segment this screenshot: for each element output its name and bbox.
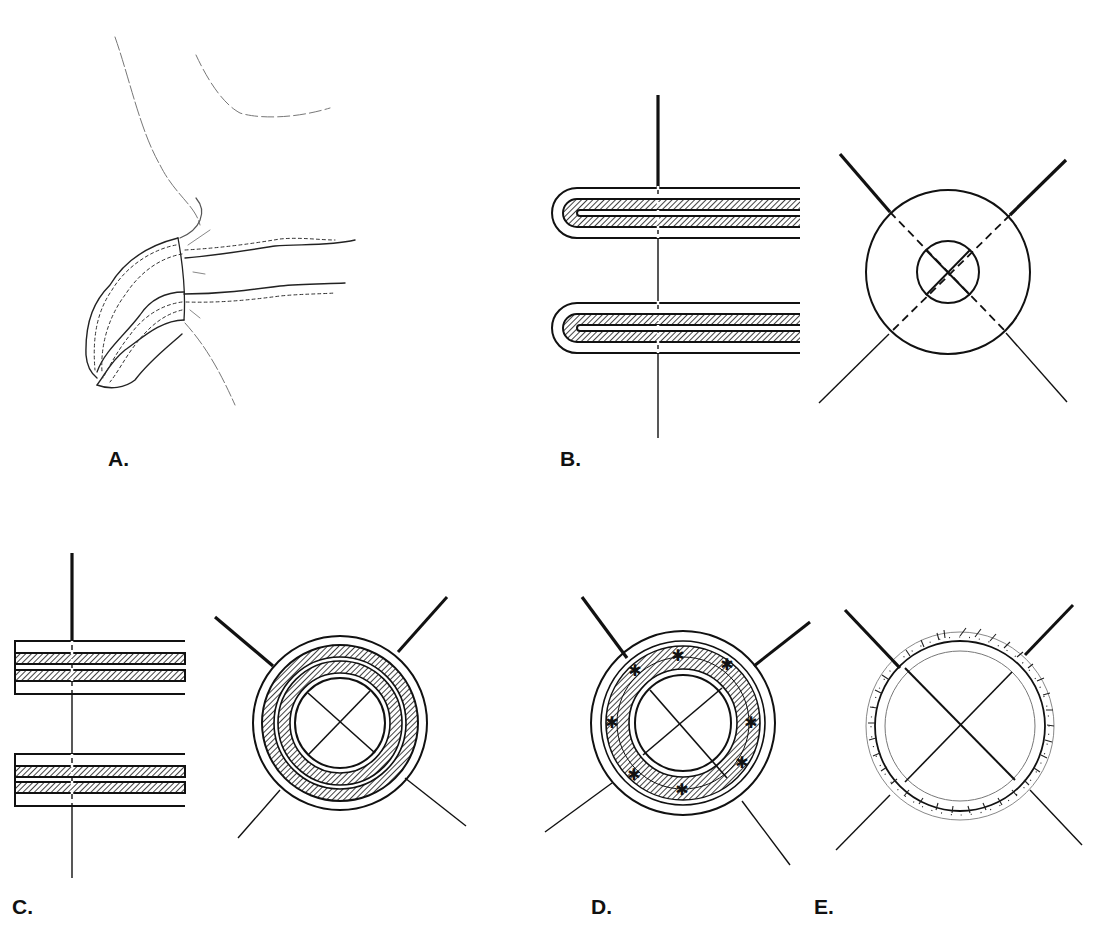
svg-text:✱: ✱ <box>720 655 733 674</box>
panel-b-cross-section <box>819 154 1067 403</box>
figure-canvas: ✱ ✱ ✱ ✱ ✱ ✱ ✱ ✱ <box>0 0 1103 941</box>
svg-text:✱: ✱ <box>744 713 757 732</box>
tube-outer-bottom <box>97 320 184 388</box>
u-tube-upper <box>552 188 800 238</box>
tube-right-lower <box>184 283 345 294</box>
svg-text:✱: ✱ <box>735 753 748 772</box>
skin-outline-upper <box>115 37 200 225</box>
tube-cut-line <box>178 238 185 320</box>
panel-b-longitudinal <box>552 95 800 438</box>
panel-e-cross-section <box>836 605 1082 850</box>
panel-label-e: E. <box>814 896 834 917</box>
panel-a-sketch <box>86 37 355 405</box>
panel-d-cross-section: ✱ ✱ ✱ ✱ ✱ ✱ ✱ ✱ <box>545 597 810 865</box>
svg-text:✱: ✱ <box>627 765 640 784</box>
svg-text:✱: ✱ <box>628 661 641 680</box>
panel-c-cross-section <box>215 597 466 838</box>
panel-label-a: A. <box>108 448 129 469</box>
tube-middle <box>97 292 184 372</box>
u-tube-lower <box>552 303 800 353</box>
svg-text:✱: ✱ <box>671 646 684 665</box>
layer-stack-lower <box>15 754 185 806</box>
layer-stack-upper <box>15 641 185 694</box>
tube-outer-top <box>86 238 178 378</box>
svg-text:✱: ✱ <box>675 780 688 799</box>
skin-outline-neck <box>180 198 202 238</box>
skin-fold-curve <box>196 55 330 117</box>
panel-c-longitudinal <box>15 553 185 878</box>
svg-text:✱: ✱ <box>605 713 618 732</box>
panel-label-b: B. <box>560 448 581 469</box>
panel-label-c: C. <box>12 896 33 917</box>
skin-outline-lower <box>185 323 235 405</box>
panel-label-d: D. <box>591 896 612 917</box>
tube-right-upper <box>185 240 355 258</box>
